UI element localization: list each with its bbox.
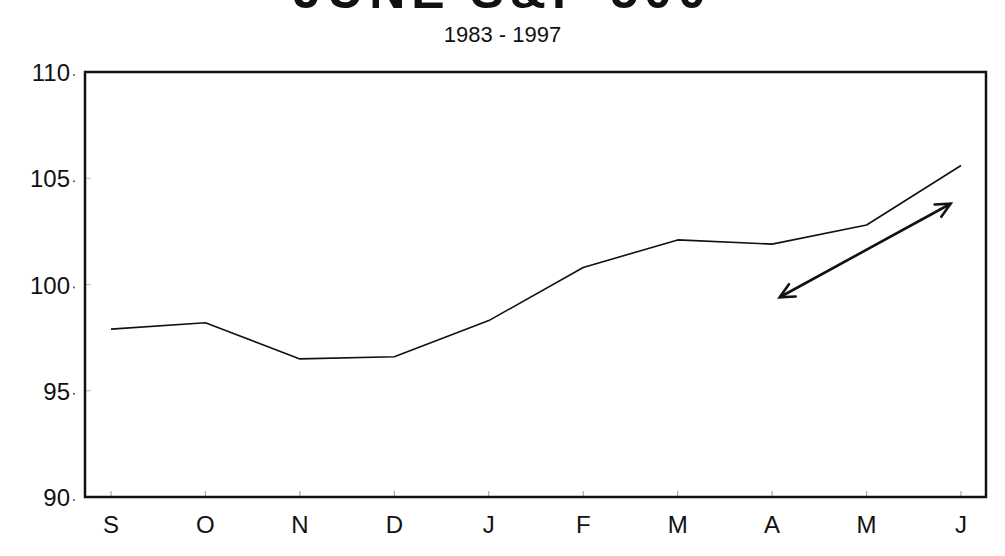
y-tick-label: 105 — [30, 165, 70, 192]
x-tick-label: M — [668, 511, 688, 538]
x-tick-label: O — [196, 511, 215, 538]
x-tick-label: S — [103, 511, 119, 538]
data-line — [111, 166, 961, 359]
plot-frame — [85, 72, 986, 497]
x-tick-label: D — [386, 511, 403, 538]
y-tick-label: 110 — [32, 59, 70, 86]
line-chart: 9095100105110 SONDJFMAMJ — [0, 0, 1005, 556]
y-axis-labels: 9095100105110 — [30, 59, 70, 511]
y-axis-ticks — [73, 72, 91, 501]
y-tick-label: 90 — [43, 484, 70, 511]
trend-double-arrow-icon — [780, 204, 951, 298]
x-tick-label: J — [955, 511, 967, 538]
y-tick-label: 95 — [43, 378, 70, 405]
x-tick-label: J — [483, 511, 495, 538]
x-tick-label: N — [291, 511, 308, 538]
x-axis-labels: SONDJFMAMJ — [103, 511, 967, 538]
x-tick-label: F — [576, 511, 591, 538]
y-tick-label: 100 — [30, 272, 70, 299]
x-tick-label: M — [857, 511, 877, 538]
x-tick-label: A — [764, 511, 780, 538]
